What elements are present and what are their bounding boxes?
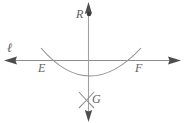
label-point-E: E xyxy=(38,62,45,74)
label-point-G: G xyxy=(92,93,101,105)
line-l-horizontal xyxy=(4,57,181,65)
vertical-line-bottom-arrowhead xyxy=(85,110,92,122)
arc-through-E-F xyxy=(41,48,141,76)
geometry-figure: ℓ R E F G xyxy=(0,0,185,123)
line-l-right-arrowhead xyxy=(168,57,181,65)
label-point-R: R xyxy=(76,8,83,20)
point-R-dot xyxy=(87,12,91,16)
label-line-l: ℓ xyxy=(7,41,12,54)
label-point-F: F xyxy=(135,62,142,74)
line-l-left-arrowhead xyxy=(4,57,17,65)
